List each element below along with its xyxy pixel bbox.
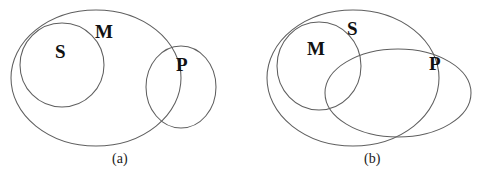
venn-diagram-canvas [0,0,487,174]
panel-a-s-circle [20,23,104,107]
panel-a-group [11,10,216,146]
panel-b-label-m: M [307,39,325,58]
panel-b-label-s: S [347,19,358,38]
panel-a-caption: (a) [112,152,128,166]
panel-a-label-m: M [95,22,113,41]
panel-a-label-p: P [176,55,188,74]
figure-root: S M P M S P (a) (b) [0,0,487,174]
panel-b-group [267,10,471,146]
panel-a-label-s: S [55,42,66,61]
panel-b-p-ellipse [325,49,471,137]
panel-b-label-p: P [429,54,441,73]
panel-b-caption: (b) [364,152,380,166]
